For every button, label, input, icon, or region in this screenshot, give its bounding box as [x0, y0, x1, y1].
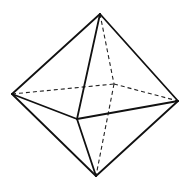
visible-edges [12, 14, 178, 176]
visible-edge-left-front [12, 94, 77, 119]
hidden-edge-top-back [100, 14, 114, 84]
hidden-edge-back-right [114, 84, 178, 101]
visible-edge-top-front [77, 14, 100, 119]
octahedron-diagram [0, 0, 190, 186]
visible-edge-front-right [77, 101, 178, 119]
visible-edge-left-bottom [12, 94, 96, 176]
hidden-edge-left-back [12, 84, 114, 94]
visible-edge-top-right [100, 14, 178, 101]
visible-edge-top-left [12, 14, 100, 94]
